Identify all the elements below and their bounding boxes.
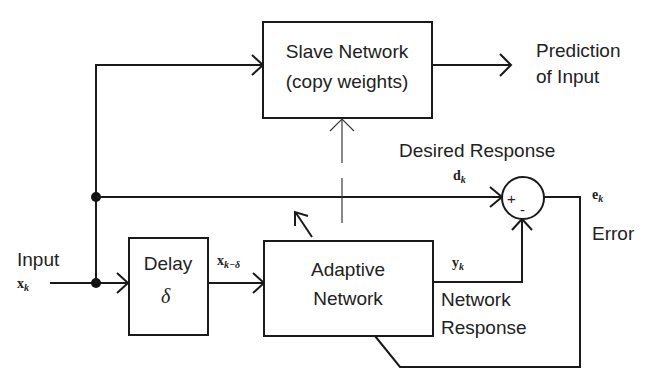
desired-response-label: Desired Response	[399, 140, 555, 161]
error-symbol: ek	[592, 187, 603, 204]
minus-sign: -	[520, 201, 525, 218]
input-symbol: xk	[17, 276, 29, 293]
plus-sign: +	[507, 190, 516, 207]
output-symbol: yk	[452, 255, 464, 272]
adaptation-arrow-shaft	[296, 213, 312, 237]
slave-copy-weights-label: (copy weights)	[286, 71, 409, 92]
prediction-label-line1: Prediction	[536, 40, 621, 61]
network-label: Network	[313, 288, 383, 309]
input-label: Input	[17, 249, 60, 270]
error-label: Error	[592, 223, 635, 244]
delay-symbol: δ	[161, 285, 171, 307]
desired-symbol: dk	[453, 168, 466, 185]
slave-network-label: Slave Network	[286, 41, 409, 62]
delayed-input-symbol: xk−δ	[217, 253, 240, 270]
adaptive-prediction-diagram: Slave Network (copy weights) Prediction …	[0, 0, 663, 388]
prediction-label-line2: of Input	[536, 66, 600, 87]
adaptive-label: Adaptive	[311, 259, 385, 280]
delay-label: Delay	[144, 253, 193, 274]
slave-network-block	[263, 22, 432, 118]
network-response-line	[433, 220, 522, 282]
network-response-label-line2: Response	[441, 317, 527, 338]
network-response-label-line1: Network	[441, 289, 511, 310]
